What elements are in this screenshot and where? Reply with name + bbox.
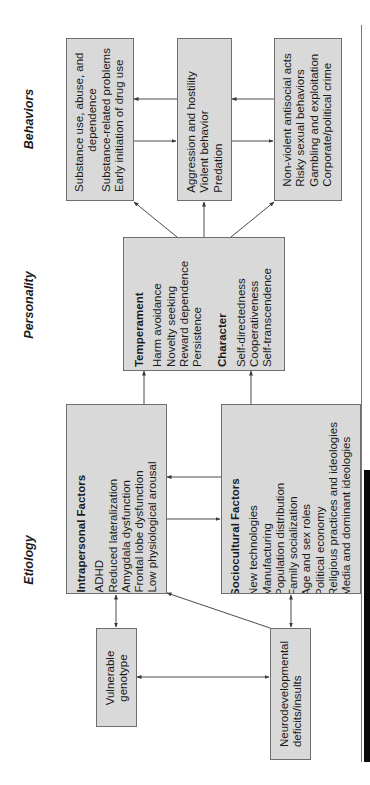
list-item: Predation <box>211 71 224 192</box>
behavior-box-substance: Substance use, abuse, and dependence Sub… <box>66 38 134 201</box>
list-item: Harm avoidance <box>151 261 164 367</box>
list-item: Media and dominant ideologies <box>340 422 353 594</box>
column-label-etiology: Etiology <box>22 535 36 584</box>
sociocultural-box: Sociocultural Factors New technologies M… <box>221 404 361 594</box>
list-item: Vulnerable <box>103 650 116 705</box>
list-item: genotype <box>117 650 130 705</box>
column-label-behaviors: Behaviors <box>22 89 36 149</box>
list-item: Corporate/political crime <box>321 53 334 187</box>
list-item: Reward dependence <box>178 261 191 367</box>
genotype-box: Vulnerable genotype <box>96 628 137 727</box>
list-item: Non-violent antisocial acts <box>281 53 294 187</box>
list-item: Novelty seeking <box>165 261 178 367</box>
intrapersonal-box: Intrapersonal Factors ADHD Reduced later… <box>66 404 167 594</box>
list-item: Risky sexual behaviors <box>295 53 308 187</box>
list-item: Religious practices and ideologies <box>327 422 340 594</box>
list-item: Political economy <box>313 422 326 594</box>
list-item: Age and sex roles <box>300 422 313 594</box>
temperament-title: Temperament <box>133 261 146 367</box>
behavior-substance-text: Substance use, abuse, and dependence Sub… <box>73 48 126 192</box>
page-edge-shadow <box>364 470 370 762</box>
list-item: Substance use, abuse, and <box>73 48 86 192</box>
list-item: Self-transcendence <box>262 261 275 367</box>
intrapersonal-title: Intrapersonal Factors <box>74 461 87 592</box>
behavior-nonviolent-text: Non-violent antisocial acts Risky sexual… <box>281 53 334 187</box>
sociocultural-title: Sociocultural Factors <box>229 422 242 594</box>
list-item: Gambling and exploitation <box>308 53 321 187</box>
list-item: Family socialization <box>287 422 300 594</box>
list-item: Low physiological arousal <box>146 461 159 592</box>
list-item: Manufacturing <box>260 422 273 594</box>
intrapersonal-text: Intrapersonal Factors ADHD Reduced later… <box>74 461 159 592</box>
neurodevelopmental-text: Neurodevelopmental deficits/insults <box>277 641 304 747</box>
behavior-box-nonviolent: Non-violent antisocial acts Risky sexual… <box>274 38 342 201</box>
arrow-neuro-to-intrapersonal <box>167 593 270 628</box>
list-item: Frontal lobe dysfunction <box>132 461 145 592</box>
list-item: Neurodevelopmental <box>277 641 290 747</box>
list-item: Substance-related problems <box>100 48 113 192</box>
list-item: ADHD <box>92 461 105 592</box>
list-item: Cooperativeness <box>248 261 261 367</box>
list-item: Amygdala dysfunction <box>119 461 132 592</box>
list-item: Aggression and hostility <box>185 71 198 192</box>
character-title: Character <box>217 261 230 367</box>
neurodevelopmental-box: Neurodevelopmental deficits/insults <box>270 628 311 760</box>
list-item: Reduced lateralization <box>106 461 119 592</box>
genotype-text: Vulnerable genotype <box>103 650 130 705</box>
arrow-personality-to-nonviolent <box>231 202 274 237</box>
list-item: New technologies <box>247 422 260 594</box>
list-item: Population distribution <box>274 422 287 594</box>
personality-box: Temperament Harm avoidance Novelty seeki… <box>123 237 285 371</box>
list-item: Violent behavior <box>198 71 211 192</box>
list-item: Persistence <box>191 261 204 367</box>
behavior-box-aggression: Aggression and hostility Violent behavio… <box>177 38 232 201</box>
list-item: Self-directedness <box>235 261 248 367</box>
column-label-personality: Personality <box>22 271 36 338</box>
arrow-personality-to-substance <box>134 202 177 237</box>
sociocultural-text: Sociocultural Factors New technologies M… <box>229 422 354 594</box>
list-item: dependence <box>87 48 100 192</box>
personality-text: Temperament Harm avoidance Novelty seeki… <box>133 261 275 367</box>
page-edge-line <box>361 25 362 762</box>
behavior-aggression-text: Aggression and hostility Violent behavio… <box>185 71 225 192</box>
list-item: Early initiation of drug use <box>113 48 126 192</box>
list-item: deficits/insults <box>291 641 304 747</box>
